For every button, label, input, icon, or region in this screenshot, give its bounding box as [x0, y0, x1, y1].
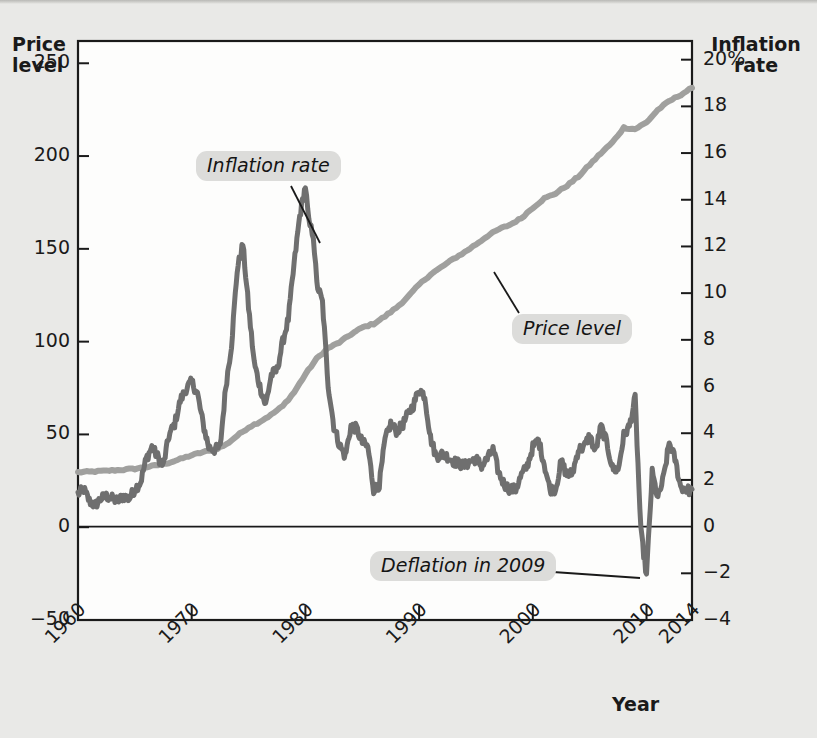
- inflation-price-level-figure: Price level Inflation rate Year 25020015…: [0, 0, 817, 738]
- price-level-line: [78, 88, 692, 473]
- callout-inflation-rate: Inflation rate: [196, 151, 341, 181]
- inflation-rate-line: [78, 188, 692, 574]
- callout-deflation-2009: Deflation in 2009: [370, 551, 556, 581]
- callout-price-level: Price level: [512, 314, 632, 344]
- leader-line-price: [494, 272, 519, 313]
- leader-line-deflation: [553, 572, 640, 578]
- chart-canvas: [0, 0, 817, 738]
